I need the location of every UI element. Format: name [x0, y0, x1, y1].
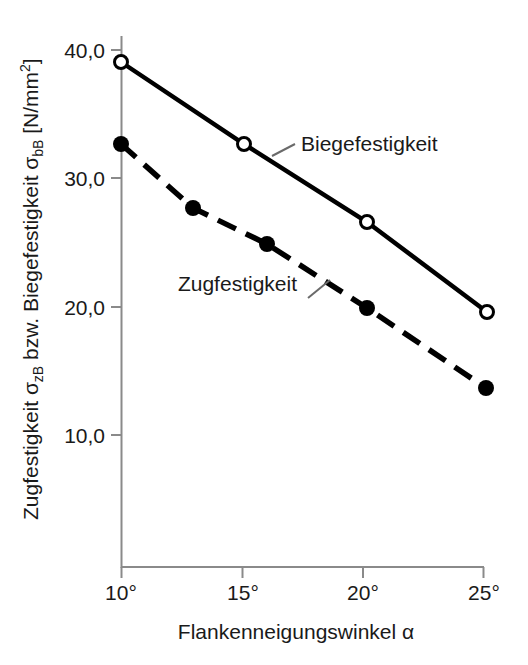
- data-point-marker-filled: [478, 380, 494, 396]
- zugfestigkeit-leader-line: [308, 280, 330, 298]
- x-axis-title: Flankenneigungswinkel α: [178, 620, 414, 643]
- y-axis-title-sub2: bB: [30, 140, 46, 157]
- y-tick-label-30: 30,0: [64, 167, 105, 190]
- data-point-marker-filled: [359, 300, 375, 316]
- x-tick-label-25: 25°: [468, 581, 500, 604]
- data-point-marker-filled: [113, 136, 129, 152]
- series-biegefestigkeit-line: [121, 62, 487, 312]
- data-point-marker-open: [481, 306, 494, 319]
- y-tick-label-40: 40,0: [64, 39, 105, 62]
- x-tick-label-10: 10°: [105, 581, 137, 604]
- y-axis-title-sub1: zB: [30, 366, 46, 382]
- y-axis-title-sup: 2: [17, 64, 33, 72]
- y-axis-title-part1: Zugfestigkeit σ: [19, 382, 42, 520]
- y-axis-title-part3: [N/mm: [19, 72, 42, 140]
- y-axis-title-part4: ]: [19, 58, 42, 64]
- data-point-marker-filled: [259, 236, 275, 252]
- biegefestigkeit-leader-line: [272, 144, 295, 156]
- y-axis-title-part2: bzw. Biegefestigkeit σ: [19, 157, 42, 366]
- zugfestigkeit-label: Zugfestigkeit: [178, 272, 297, 295]
- y-axis-title: Zugfestigkeit σzB bzw. Biegefestigkeit σ…: [17, 58, 46, 520]
- data-point-marker-open: [115, 56, 128, 69]
- x-axis-title-text: Flankenneigungswinkel α: [178, 620, 414, 643]
- x-tick-label-15: 15°: [227, 581, 259, 604]
- chart-plot-area: 40,0 30,0 20,0 10,0 10° 15° 20° 25° Flan…: [0, 0, 528, 665]
- data-point-marker-open: [361, 216, 374, 229]
- chart-figure: 40,0 30,0 20,0 10,0 10° 15° 20° 25° Flan…: [0, 0, 528, 665]
- biegefestigkeit-label: Biegefestigkeit: [301, 132, 438, 155]
- x-tick-label-20: 20°: [347, 581, 379, 604]
- y-tick-label-10: 10,0: [64, 424, 105, 447]
- data-point-marker-filled: [185, 200, 201, 216]
- data-point-marker-open: [238, 138, 251, 151]
- y-tick-label-20: 20,0: [64, 296, 105, 319]
